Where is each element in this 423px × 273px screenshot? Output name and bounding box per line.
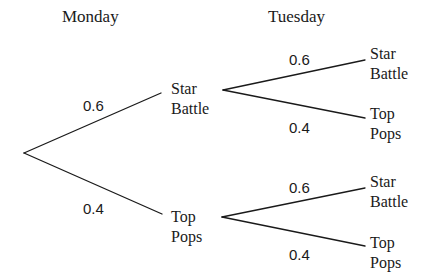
- node-label-line1: Star: [171, 79, 209, 99]
- node-label-line2: Pops: [370, 124, 401, 144]
- node-sb-tuesday-star-battle: Star Battle: [370, 44, 408, 84]
- node-label-line1: Star: [370, 172, 408, 192]
- node-label-line2: Pops: [370, 253, 401, 273]
- header-monday: Monday: [62, 7, 119, 27]
- prob-sb-tuesday-top-pops: 0.4: [289, 118, 310, 138]
- prob-tp-tuesday-star-battle: 0.6: [289, 178, 310, 198]
- node-label-line1: Top: [370, 104, 401, 124]
- branch-sb-to-tuesday-top-pops: [223, 90, 365, 118]
- branch-tp-to-tuesday-top-pops: [222, 217, 365, 246]
- prob-monday-top-pops: 0.4: [83, 199, 104, 219]
- node-tp-tuesday-top-pops: Top Pops: [370, 233, 401, 273]
- node-label-line2: Battle: [171, 99, 209, 119]
- node-monday-star-battle: Star Battle: [171, 79, 209, 119]
- node-label-line1: Star: [370, 44, 408, 64]
- header-tuesday: Tuesday: [268, 7, 325, 27]
- node-label-line2: Battle: [370, 192, 408, 212]
- node-label-line1: Top: [171, 207, 202, 227]
- node-label-line2: Battle: [370, 64, 408, 84]
- node-label-line2: Pops: [171, 227, 202, 247]
- node-tp-tuesday-star-battle: Star Battle: [370, 172, 408, 212]
- node-monday-top-pops: Top Pops: [171, 207, 202, 247]
- node-label-line1: Top: [370, 233, 401, 253]
- prob-sb-tuesday-star-battle: 0.6: [289, 50, 310, 70]
- node-sb-tuesday-top-pops: Top Pops: [370, 104, 401, 144]
- prob-tp-tuesday-top-pops: 0.4: [289, 245, 310, 265]
- prob-monday-star-battle: 0.6: [83, 96, 104, 116]
